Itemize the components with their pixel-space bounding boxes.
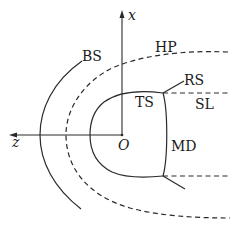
z-axis-label: z [11, 134, 20, 150]
heliopause-label: HP [155, 39, 177, 55]
heliosphere-diagram: x z O BS HP RS TS SL MD [0, 0, 237, 229]
mach-disk-curve [163, 93, 167, 176]
origin-label: O [118, 137, 130, 153]
slip-line-label: SL [195, 96, 214, 112]
termination-shock-label: TS [135, 94, 154, 110]
reflected-shock-lower-line [163, 176, 185, 189]
reflected-shock-upper-line [163, 81, 184, 93]
x-axis-label: x [128, 7, 136, 23]
mach-disk-label: MD [171, 138, 197, 154]
bow-shock-label: BS [82, 48, 102, 64]
origin-point [121, 134, 124, 137]
reflected-shock-label: RS [184, 72, 204, 88]
